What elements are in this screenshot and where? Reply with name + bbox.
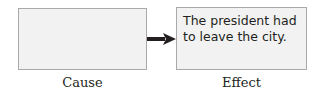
- right-arrow-icon: [147, 32, 177, 46]
- cause-label: Cause: [18, 75, 147, 90]
- effect-text: The president had to leave the city.: [183, 13, 300, 45]
- cause-box: [18, 8, 147, 70]
- effect-box: The president had to leave the city.: [176, 7, 307, 70]
- effect-label: Effect: [176, 75, 307, 90]
